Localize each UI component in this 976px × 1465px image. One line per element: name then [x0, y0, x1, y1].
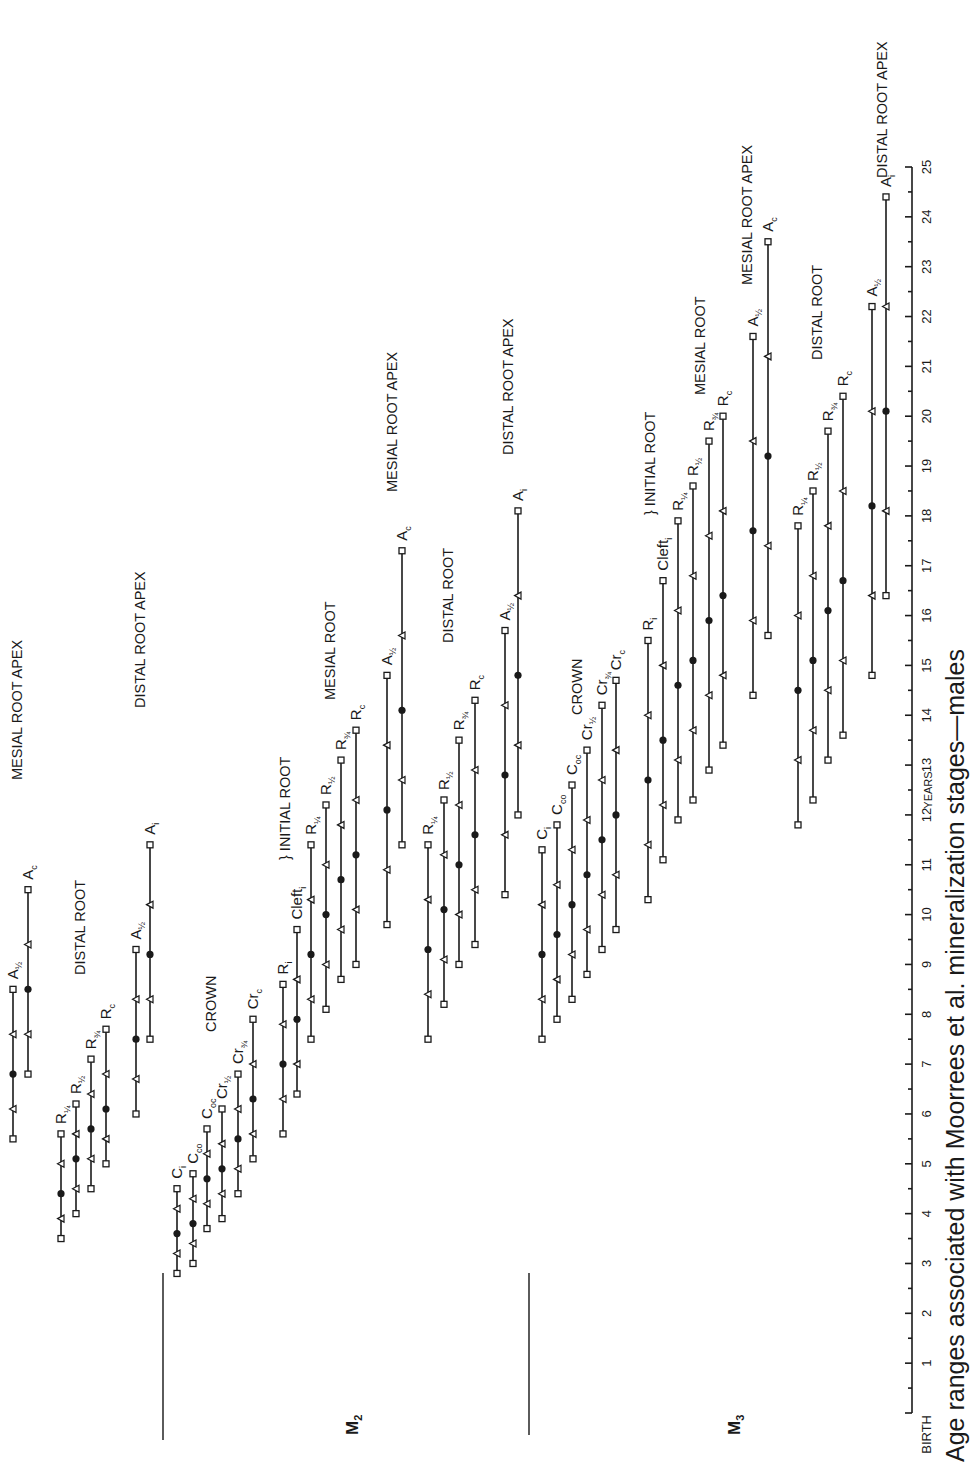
- mean-dot: [249, 1095, 256, 1102]
- stage-label: R¾: [450, 711, 470, 730]
- square-marker: [810, 488, 816, 494]
- range-bar: [824, 428, 831, 763]
- mean-dot: [514, 672, 521, 679]
- square-marker: [73, 1211, 79, 1217]
- tick-label: 23: [919, 259, 934, 273]
- square-marker: [384, 672, 390, 678]
- stage-label: R½: [804, 462, 824, 481]
- mean-dot: [424, 946, 431, 953]
- range-bar: [553, 822, 560, 1022]
- stage-label: R¾: [700, 412, 720, 431]
- range-bar: [440, 797, 447, 1007]
- group-label: DISTAL ROOT: [809, 265, 825, 360]
- mean-dot: [173, 1230, 180, 1237]
- group-label: MESIAL ROOT: [692, 296, 708, 395]
- mean-dot: [57, 1190, 64, 1197]
- mean-dot: [809, 657, 816, 664]
- range-bar: [514, 508, 521, 818]
- stage-label: R¾: [819, 402, 839, 421]
- tooth-label: M3: [725, 1415, 746, 1435]
- tick-label: 6: [919, 1110, 934, 1117]
- square-marker: [675, 817, 681, 823]
- square-marker: [456, 737, 462, 743]
- tick-label: 13: [919, 758, 934, 772]
- square-marker: [599, 702, 605, 708]
- group-label: MESIAL ROOT APEX: [9, 639, 25, 780]
- range-bar: [352, 727, 359, 967]
- mean-dot: [234, 1135, 241, 1142]
- square-marker: [569, 996, 575, 1002]
- square-marker: [294, 1091, 300, 1097]
- square-marker: [323, 802, 329, 808]
- tick-label: 24: [919, 210, 934, 224]
- stage-label: Ci: [533, 827, 553, 840]
- stage-label: Clefti: [288, 887, 308, 920]
- square-marker: [613, 677, 619, 683]
- stage-label: Ac: [19, 865, 39, 880]
- range-bar: [398, 548, 405, 848]
- mean-dot: [322, 911, 329, 918]
- tick-label: 1: [919, 1360, 934, 1367]
- square-marker: [294, 927, 300, 933]
- tick-label: 12: [919, 808, 934, 822]
- mean-dot: [612, 811, 619, 818]
- range-bar: [455, 737, 462, 967]
- square-marker: [690, 483, 696, 489]
- square-marker: [599, 946, 605, 952]
- stage-label: R¼: [419, 816, 439, 835]
- tick-label: 18: [919, 509, 934, 523]
- mean-dot: [568, 901, 575, 908]
- square-marker: [660, 578, 666, 584]
- tick-label: 17: [919, 558, 934, 572]
- stage-label: Rc: [347, 704, 367, 720]
- stage-label: R¼: [302, 816, 322, 835]
- mean-dot: [764, 452, 771, 459]
- square-marker: [219, 1216, 225, 1222]
- range-bar: [538, 847, 545, 1042]
- stage-label: R¾: [82, 1030, 102, 1049]
- square-marker: [472, 942, 478, 948]
- range-bar: [568, 782, 575, 1002]
- square-marker: [204, 1126, 210, 1132]
- square-marker: [250, 1156, 256, 1162]
- range-bar: [501, 628, 508, 898]
- group-label: DISTAL ROOT: [440, 548, 456, 643]
- square-marker: [399, 842, 405, 848]
- mean-dot: [440, 906, 447, 913]
- range-bar: [9, 986, 16, 1142]
- square-marker: [765, 632, 771, 638]
- tick-label: 7: [919, 1061, 934, 1068]
- stage-label: Cr¾: [229, 1040, 249, 1064]
- range-bar: [612, 677, 619, 932]
- square-marker: [190, 1260, 196, 1266]
- square-marker: [720, 742, 726, 748]
- group-label: CROWN: [203, 976, 219, 1032]
- tooth-label: M2: [343, 1415, 364, 1435]
- range-bar: [644, 637, 651, 902]
- square-marker: [720, 413, 726, 419]
- square-marker: [539, 847, 545, 853]
- range-bar: [24, 887, 31, 1077]
- range-bar: [674, 518, 681, 823]
- stage-label: Rc: [714, 390, 734, 406]
- range-bar: [471, 697, 478, 947]
- range-bar: [659, 578, 666, 863]
- mean-dot: [794, 687, 801, 694]
- square-marker: [425, 1036, 431, 1042]
- stage-label: A½: [863, 279, 883, 297]
- square-marker: [840, 732, 846, 738]
- range-bars: [9, 194, 889, 1277]
- square-marker: [645, 897, 651, 903]
- stage-label: Cr½: [213, 1075, 233, 1099]
- stage-label: Ai: [509, 489, 529, 501]
- group-label: DISTAL ROOT APEX: [132, 571, 148, 708]
- square-marker: [204, 1226, 210, 1232]
- square-marker: [308, 842, 314, 848]
- square-marker: [235, 1071, 241, 1077]
- mean-dot: [293, 1016, 300, 1023]
- square-marker: [795, 523, 801, 529]
- square-marker: [765, 239, 771, 245]
- square-marker: [502, 628, 508, 634]
- mean-dot: [9, 1070, 16, 1077]
- mean-dot: [87, 1125, 94, 1132]
